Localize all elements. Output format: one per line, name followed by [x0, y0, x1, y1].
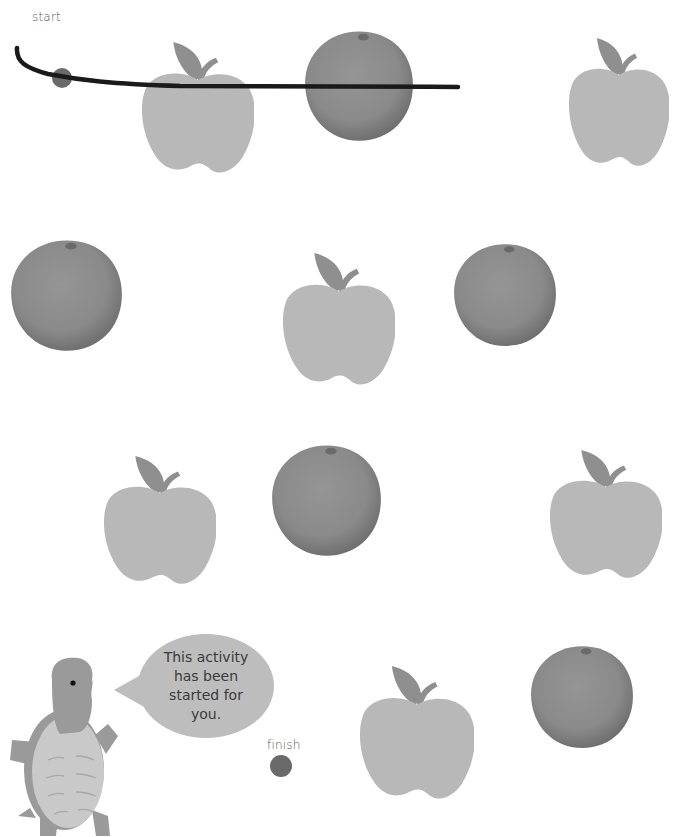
bubble-line-1: This activity [150, 648, 262, 667]
turtle-mascot [0, 650, 130, 837]
finish-label: finish [267, 738, 301, 752]
finish-dot[interactable] [270, 755, 292, 777]
bubble-line-3: started for [150, 686, 262, 705]
bubble-line-4: you. [150, 705, 262, 724]
bubble-line-2: has been [150, 667, 262, 686]
